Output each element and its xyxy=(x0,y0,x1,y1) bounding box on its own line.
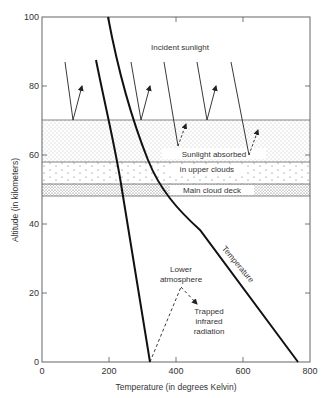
x-tick-labels: 0 200 400 600 800 xyxy=(39,366,317,376)
x-tick-0: 0 xyxy=(39,366,44,376)
y-tick-60: 60 xyxy=(29,150,39,160)
x-tick-800: 800 xyxy=(302,366,317,376)
y-tick-20: 20 xyxy=(29,288,39,298)
venus-atmosphere-chart: 0 200 400 600 800 0 20 40 60 80 100 Temp… xyxy=(0,0,328,398)
x-tick-200: 200 xyxy=(101,366,116,376)
x-tick-400: 400 xyxy=(168,366,183,376)
incident-sunlight-label: Incident sunlight xyxy=(151,43,210,52)
main-cloud-deck-label: Main cloud deck xyxy=(183,186,242,195)
y-tick-80: 80 xyxy=(29,81,39,91)
trapped-infrared-arrows xyxy=(150,287,197,362)
y-tick-40: 40 xyxy=(29,219,39,229)
lower-atmosphere-label-2: atmosphere xyxy=(160,275,203,284)
y-tick-100: 100 xyxy=(24,12,39,22)
y-axis-label: Altitude (in kilometers) xyxy=(10,158,20,242)
x-axis-label: Temperature (in degrees Kelvin) xyxy=(116,382,237,392)
x-tick-600: 600 xyxy=(235,366,250,376)
sunlight-absorbed-label: Sunlight absorbed xyxy=(182,150,247,159)
y-tick-labels: 0 20 40 60 80 100 xyxy=(24,12,39,367)
y-tick-0: 0 xyxy=(34,357,39,367)
trapped-label-3: radiation xyxy=(194,327,225,336)
trapped-label-1: Trapped xyxy=(194,307,224,316)
trapped-label-2: infrared xyxy=(195,317,222,326)
upper-clouds-label: in upper clouds xyxy=(180,165,234,174)
lower-atmosphere-label-1: Lower xyxy=(170,265,192,274)
reference-profile-curve xyxy=(96,60,150,362)
